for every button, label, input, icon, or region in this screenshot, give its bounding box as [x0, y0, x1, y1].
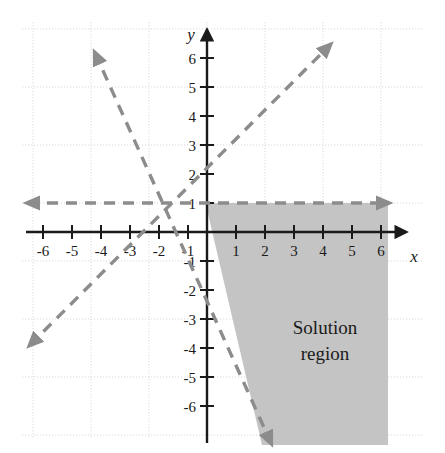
y-tick-label: -4: [184, 341, 197, 357]
x-tick-label: 1: [232, 243, 240, 259]
y-tick-label: 3: [189, 138, 197, 154]
y-axis-label: y: [185, 25, 195, 44]
y-tick-label: -3: [184, 312, 197, 328]
y-tick-label: -5: [184, 370, 197, 386]
y-tick-label: -2: [184, 283, 197, 299]
x-tick-label: 4: [319, 243, 327, 259]
x-tick-label: -5: [66, 243, 79, 259]
x-tick-label: 3: [290, 243, 298, 259]
solution-region-label-line1: Solution: [293, 317, 358, 338]
y-tick-label: 4: [189, 109, 197, 125]
solution-region-label-line2: region: [301, 343, 350, 364]
graph-figure: -6 -5 -4 -3 -2 -1 1 2 3 4 5 6 6 5 4 3 2 …: [0, 0, 445, 453]
x-tick-label: -6: [37, 243, 50, 259]
y-tick-label: 6: [189, 51, 197, 67]
y-tick-label: 5: [189, 80, 197, 96]
y-tick-label: -6: [184, 399, 197, 415]
x-axis-label: x: [409, 247, 418, 266]
x-tick-label: -4: [95, 243, 108, 259]
x-tick-label: 2: [261, 243, 269, 259]
x-tick-label: -2: [153, 243, 166, 259]
x-tick-label: 6: [377, 243, 385, 259]
coordinate-plane: -6 -5 -4 -3 -2 -1 1 2 3 4 5 6 6 5 4 3 2 …: [0, 0, 445, 453]
x-tick-label: 5: [348, 243, 356, 259]
